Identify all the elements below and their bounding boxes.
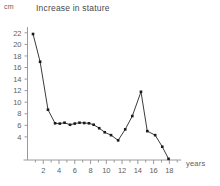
y-axis-tick-label: 6 xyxy=(17,121,21,130)
data-point-marker xyxy=(167,158,170,161)
y-axis-tick-label: 16 xyxy=(13,63,21,72)
y-axis-tick-label: 14 xyxy=(13,75,21,84)
x-axis-tick-label: 8 xyxy=(88,166,92,175)
data-line xyxy=(33,34,169,159)
data-point-marker xyxy=(161,145,164,148)
data-point-marker xyxy=(110,134,113,137)
data-point-marker xyxy=(73,122,76,125)
data-series xyxy=(32,33,170,160)
x-axis-tick-label: 6 xyxy=(73,166,77,175)
chart-plot-area: 46810121416182022 24681012141618 xyxy=(0,0,220,186)
data-point-marker xyxy=(54,122,57,125)
y-axis-tick-label: 10 xyxy=(13,98,21,107)
y-axis-tick-label: 22 xyxy=(13,29,21,38)
x-axis-tick-label: 18 xyxy=(165,166,173,175)
y-axis-tick-label: 4 xyxy=(17,133,21,142)
data-point-marker xyxy=(140,91,143,94)
data-point-marker xyxy=(124,128,127,131)
y-axis-tick-label: 18 xyxy=(13,52,21,61)
data-point-marker xyxy=(78,121,81,124)
y-axis-ticks: 46810121416182022 xyxy=(13,29,27,142)
data-point-marker xyxy=(92,123,95,126)
data-point-marker xyxy=(69,123,72,126)
y-axis-tick-label: 12 xyxy=(13,86,21,95)
y-axis: 46810121416182022 xyxy=(13,27,27,160)
x-axis-ticks: 24681012141618 xyxy=(35,160,177,175)
y-axis-tick-label: 8 xyxy=(17,109,21,118)
data-point-marker xyxy=(131,115,134,118)
x-axis-tick-label: 16 xyxy=(149,166,157,175)
data-point-marker xyxy=(83,122,86,125)
data-point-marker xyxy=(47,108,50,111)
data-point-marker xyxy=(39,60,42,63)
data-point-marker xyxy=(88,122,91,125)
x-axis-tick-label: 14 xyxy=(134,166,142,175)
data-point-marker xyxy=(59,122,62,125)
data-point-marker xyxy=(103,131,106,134)
chart-figure: cm Increase in stature years 46810121416… xyxy=(0,0,220,186)
data-point-marker xyxy=(32,33,35,36)
data-point-marker xyxy=(98,127,101,130)
x-axis-tick-label: 12 xyxy=(118,166,126,175)
x-axis-tick-label: 2 xyxy=(41,166,45,175)
data-point-marker xyxy=(146,130,149,133)
x-axis-tick-label: 10 xyxy=(102,166,110,175)
data-point-marker xyxy=(63,121,66,124)
x-axis: 24681012141618 xyxy=(24,160,182,175)
data-point-marker xyxy=(154,134,157,137)
y-axis-tick-label: 20 xyxy=(13,40,21,49)
x-axis-tick-label: 4 xyxy=(57,166,61,175)
data-point-marker xyxy=(117,139,120,142)
